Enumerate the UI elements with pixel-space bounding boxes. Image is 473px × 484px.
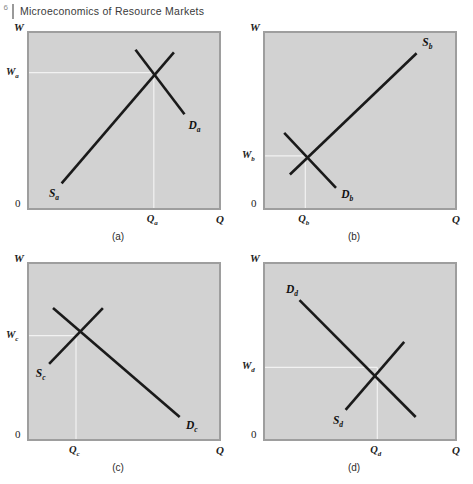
- chart-panel-a: WQ0WaQaSaDa(a): [0, 22, 236, 253]
- plot-svg-d: [236, 253, 472, 484]
- figure-grid: WQ0WaQaSaDa(a) WQ0WbQbSbDb(b) WQ0WcQcScD…: [0, 22, 473, 484]
- chart-panel-b: WQ0WbQbSbDb(b): [236, 22, 472, 253]
- tick-quantity-c: Qc: [69, 444, 80, 458]
- plot-svg-b: [236, 22, 472, 253]
- panel-caption-d: (d): [236, 462, 472, 473]
- plot-area-c: [28, 263, 220, 440]
- tick-price-d: Wd: [242, 360, 255, 374]
- axis-label-w-b: W: [250, 21, 260, 33]
- panel-caption-a: (a): [0, 231, 236, 242]
- axis-origin-d: 0: [251, 428, 257, 440]
- plot-area-b: [264, 32, 456, 209]
- curve-label-demand-a: Da: [188, 119, 200, 134]
- curve-label-supply-c: Sc: [36, 367, 46, 382]
- curve-label-demand-d: Dd: [286, 283, 298, 298]
- tick-quantity-b: Qb: [298, 213, 309, 227]
- axis-origin-a: 0: [15, 197, 21, 209]
- page-header: 6 Microeconomics of Resource Markets: [0, 0, 473, 22]
- tick-quantity-a: Qa: [147, 213, 158, 227]
- curve-label-demand-b: Db: [341, 188, 353, 203]
- axis-label-q-c: Q: [216, 444, 224, 456]
- curve-label-supply-d: Sd: [333, 414, 343, 429]
- tick-price-a: Wa: [6, 66, 19, 80]
- curve-label-supply-a: Sa: [49, 187, 59, 202]
- panel-caption-b: (b): [236, 231, 472, 242]
- axis-label-w-d: W: [250, 252, 260, 264]
- axis-label-q-b: Q: [452, 213, 460, 225]
- curve-label-supply-b: Sb: [422, 36, 432, 51]
- plot-svg-a: [0, 22, 236, 253]
- chart-panel-d: WQ0WdQdSdDd(d): [236, 253, 472, 484]
- axis-label-q-d: Q: [452, 444, 460, 456]
- axis-origin-c: 0: [15, 428, 21, 440]
- tick-price-b: Wb: [242, 149, 255, 163]
- panel-caption-c: (c): [0, 462, 236, 473]
- tick-quantity-d: Qd: [370, 444, 381, 458]
- axis-label-w-a: W: [14, 21, 24, 33]
- tick-price-c: Wc: [6, 329, 18, 343]
- page-folio: 6: [0, 4, 8, 12]
- header-divider: [12, 4, 14, 19]
- axis-label-q-a: Q: [216, 213, 224, 225]
- axis-label-w-c: W: [14, 252, 24, 264]
- page-title: Microeconomics of Resource Markets: [20, 5, 204, 17]
- axis-origin-b: 0: [251, 197, 257, 209]
- chart-panel-c: WQ0WcQcScDc(c): [0, 253, 236, 484]
- curve-label-demand-c: Dc: [186, 419, 198, 434]
